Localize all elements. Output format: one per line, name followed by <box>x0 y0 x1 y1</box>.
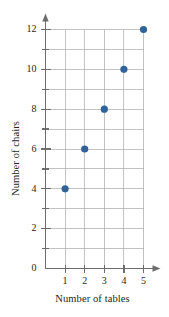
x-axis-tick-label: 5 <box>141 275 146 286</box>
y-axis-tick-label: 10 <box>27 63 37 74</box>
data-point-marker <box>101 106 108 113</box>
y-axis-tick-label: 12 <box>27 23 37 34</box>
x-axis-arrowhead <box>153 265 161 271</box>
y-axis-tick-label: 0 <box>32 262 37 273</box>
y-axis-tick-label: 2 <box>32 222 37 233</box>
tick-labels: 02468101212345 <box>27 23 147 285</box>
x-axis-tick-label: 1 <box>63 275 68 286</box>
x-axis-tick-label: 2 <box>82 275 87 286</box>
data-point-marker <box>62 185 69 192</box>
y-axis-arrowhead <box>42 14 48 22</box>
axis-lines <box>42 14 160 272</box>
y-axis-tick-label: 4 <box>32 183 37 194</box>
y-axis-tick-label: 8 <box>32 103 37 114</box>
axis-ticks <box>41 30 144 273</box>
grid-lines <box>46 30 144 269</box>
x-axis-tick-label: 3 <box>102 275 107 286</box>
y-axis-tick-label: 6 <box>32 143 37 154</box>
plot-area: 02468101212345 <box>0 0 169 317</box>
data-point-marker <box>140 26 147 33</box>
data-point-marker <box>120 66 127 73</box>
scatter-chart-figure: Number of chairs Number of tables 024681… <box>0 0 169 317</box>
x-axis-tick-label: 4 <box>121 275 126 286</box>
data-point-marker <box>81 145 88 152</box>
